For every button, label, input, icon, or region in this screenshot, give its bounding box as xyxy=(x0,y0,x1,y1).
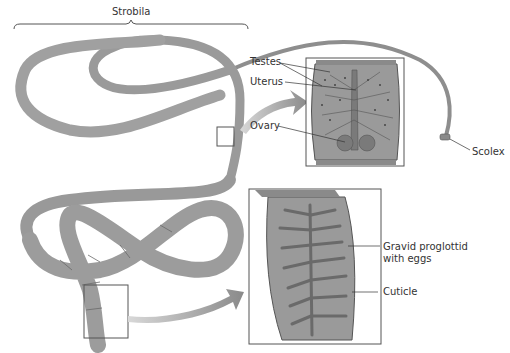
uterus-label: Uterus xyxy=(250,76,283,88)
scolex-head xyxy=(440,134,450,140)
gravid-proglottid-label-line2: with eggs xyxy=(383,253,431,265)
strobila-label: Strobila xyxy=(112,6,150,18)
strobila-bracket xyxy=(14,20,248,29)
ovary-label: Ovary xyxy=(250,120,280,132)
testes-label: Testes xyxy=(250,56,281,68)
tapeworm-diagram xyxy=(0,0,510,353)
ovary-lobe-right xyxy=(359,135,375,151)
gravid-proglottid-label-line1: Gravid proglottid xyxy=(383,241,468,253)
mature-proglottid-marker xyxy=(217,127,234,146)
scolex-label: Scolex xyxy=(472,146,505,158)
arrow-to-gravid xyxy=(128,289,244,323)
cuticle-label: Cuticle xyxy=(383,286,417,298)
ovary-lobe-left xyxy=(337,135,353,151)
